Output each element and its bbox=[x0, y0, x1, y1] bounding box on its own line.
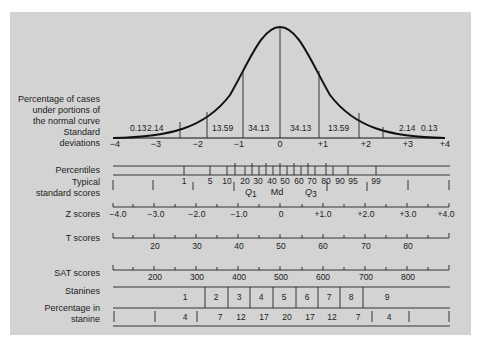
q3-subscript: 3 bbox=[312, 189, 317, 199]
pct-7: 0.13 bbox=[421, 123, 438, 133]
label-typical-2: standard scores bbox=[36, 188, 101, 198]
pct-tick: 95 bbox=[348, 176, 358, 186]
z-tick: +3.0 bbox=[400, 209, 417, 219]
sd-tick: −2 bbox=[193, 139, 203, 149]
label-pct-cases-2: under portions of bbox=[32, 105, 100, 115]
sat-tick: 800 bbox=[401, 272, 415, 282]
sd-tick-labels: −4 −3 −2 −1 0 +1 +2 +3 +4 bbox=[110, 139, 450, 149]
pct-tick: 60 bbox=[294, 176, 304, 186]
sat-tick: 200 bbox=[148, 272, 162, 282]
z-tick: +4.0 bbox=[438, 209, 455, 219]
sat-tick-labels: 200 300 400 500 600 700 800 bbox=[148, 272, 415, 282]
pct-tick: 40 bbox=[267, 176, 277, 186]
stanine-values: 1 2 3 4 5 6 7 8 9 bbox=[183, 292, 390, 302]
pct-tick: 70 bbox=[307, 176, 317, 186]
pct-1: 2.14 bbox=[147, 123, 164, 133]
stanine-pct: 4 bbox=[387, 312, 392, 322]
sd-tick: −4 bbox=[110, 139, 120, 149]
label-t-scores: T scores bbox=[66, 233, 101, 243]
stanine-cell: 7 bbox=[327, 292, 332, 302]
z-score-scale bbox=[113, 203, 449, 207]
stanine-cell: 4 bbox=[259, 292, 264, 302]
sat-tick: 400 bbox=[232, 272, 246, 282]
label-pct-cases: Percentage of cases bbox=[18, 94, 101, 104]
z-tick: −1.0 bbox=[231, 209, 248, 219]
pct-tick: 30 bbox=[253, 176, 263, 186]
z-tick: +2.0 bbox=[358, 209, 375, 219]
pct-6: 2.14 bbox=[399, 123, 416, 133]
label-z-scores: Z scores bbox=[65, 209, 100, 219]
stanine-cell: 8 bbox=[349, 292, 354, 302]
stanine-cell: 6 bbox=[305, 292, 310, 302]
normal-curve bbox=[113, 27, 445, 138]
t-tick: 60 bbox=[318, 241, 328, 251]
stanine-percentages: 4 7 12 17 20 17 12 7 4 bbox=[183, 312, 392, 322]
t-tick: 30 bbox=[192, 241, 202, 251]
sd-tick: −3 bbox=[151, 139, 161, 149]
stanine-cell: 1 bbox=[183, 292, 188, 302]
z-tick: 0 bbox=[279, 209, 284, 219]
t-tick: 40 bbox=[234, 241, 244, 251]
label-sd-1: Standard bbox=[63, 127, 100, 137]
z-tick: −3.0 bbox=[148, 209, 165, 219]
label-sat-scores: SAT scores bbox=[54, 268, 100, 278]
z-tick: −4.0 bbox=[110, 209, 127, 219]
quartile-labels: Q 1 Md Q 3 bbox=[245, 187, 317, 199]
sat-tick: 600 bbox=[316, 272, 330, 282]
sd-division-lines bbox=[180, 27, 383, 138]
stanine-cell: 3 bbox=[237, 292, 242, 302]
stanine-pct: 7 bbox=[218, 312, 223, 322]
q1-subscript: 1 bbox=[252, 189, 257, 199]
stanine-cell: 2 bbox=[214, 292, 219, 302]
sd-tick: 0 bbox=[277, 139, 282, 149]
label-sd-2: deviations bbox=[59, 138, 100, 148]
pct-tick: 5 bbox=[208, 176, 213, 186]
stanine-pct: 20 bbox=[282, 312, 292, 322]
pct-tick: 1 bbox=[182, 176, 187, 186]
pct-tick: 99 bbox=[371, 176, 381, 186]
t-tick: 80 bbox=[403, 241, 413, 251]
t-tick-labels: 20 30 40 50 60 70 80 bbox=[150, 241, 413, 251]
pct-tick: 50 bbox=[280, 176, 290, 186]
pct-4: 34.13 bbox=[290, 123, 312, 133]
pct-2: 13.59 bbox=[212, 123, 234, 133]
median-label: Md bbox=[271, 187, 284, 197]
pct-tick: 20 bbox=[240, 176, 250, 186]
sat-tick: 300 bbox=[190, 272, 204, 282]
stanine-cell: 9 bbox=[385, 292, 390, 302]
sat-tick: 700 bbox=[359, 272, 373, 282]
normal-curve-diagram: Percentage of cases under portions of th… bbox=[0, 0, 479, 347]
label-stanines: Stanines bbox=[65, 286, 101, 296]
label-percentiles: Percentiles bbox=[55, 165, 100, 175]
pct-tick: 10 bbox=[222, 176, 232, 186]
t-score-scale bbox=[113, 233, 449, 238]
t-tick: 20 bbox=[150, 241, 160, 251]
z-tick: −2.0 bbox=[189, 209, 206, 219]
stanine-pct: 17 bbox=[259, 312, 269, 322]
stanine-pct: 7 bbox=[356, 312, 361, 322]
sd-tick: +2 bbox=[361, 139, 371, 149]
z-tick-labels: −4.0 −3.0 −2.0 −1.0 0 +1.0 +2.0 +3.0 +4.… bbox=[110, 209, 455, 219]
stanine-cell: 5 bbox=[282, 292, 287, 302]
pct-3: 34.13 bbox=[248, 123, 270, 133]
percentile-scale bbox=[113, 163, 450, 175]
q1-label: Q bbox=[245, 187, 252, 197]
label-pct-in-stanine-2: stanine bbox=[71, 314, 100, 324]
sat-tick: 500 bbox=[274, 272, 288, 282]
t-tick: 70 bbox=[361, 241, 371, 251]
pct-0: 0.13 bbox=[130, 123, 147, 133]
t-tick: 50 bbox=[276, 241, 286, 251]
label-pct-cases-3: the normal curve bbox=[33, 116, 100, 126]
z-tick: +1.0 bbox=[315, 209, 332, 219]
sat-score-scale bbox=[113, 265, 449, 270]
q3-label: Q bbox=[305, 187, 312, 197]
stanine-pct: 12 bbox=[236, 312, 246, 322]
sd-tick: +1 bbox=[318, 139, 328, 149]
pct-tick: 90 bbox=[335, 176, 345, 186]
label-typical-1: Typical bbox=[72, 177, 100, 187]
label-pct-in-stanine-1: Percentage in bbox=[44, 303, 100, 313]
percentile-tick-labels: 1 5 10 20 30 40 50 60 70 80 90 95 99 bbox=[182, 176, 381, 186]
sd-tick: −1 bbox=[234, 139, 244, 149]
sd-tick: +3 bbox=[403, 139, 413, 149]
pct-5: 13.59 bbox=[328, 123, 350, 133]
